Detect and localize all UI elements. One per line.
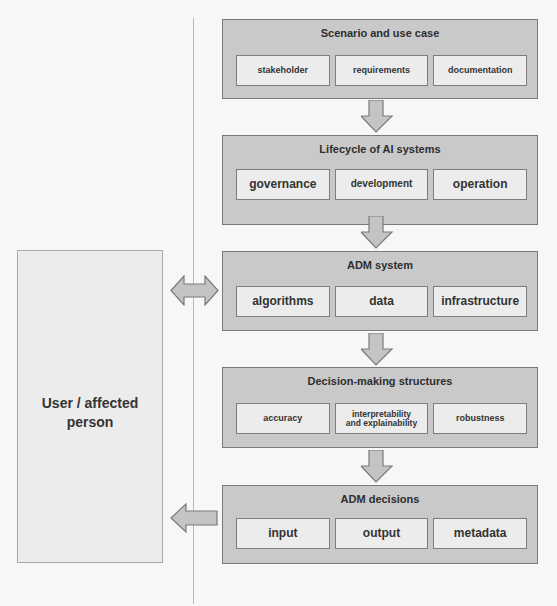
user-label-line2: person [18,413,162,432]
user-affected-person-box: User / affected person [17,250,163,563]
item-robustness: robustness [433,403,527,434]
item-metadata: metadata [433,518,527,549]
stage-items: algorithms data infrastructure [236,286,527,317]
stage-scenario-use-case: Scenario and use case stakeholder requir… [222,19,538,99]
arrow-down-icon [361,216,394,250]
stage-title: Scenario and use case [223,27,537,39]
item-accuracy: accuracy [236,403,330,434]
stage-decision-making-structures: Decision-making structures accuracy inte… [222,367,538,448]
stage-adm-system: ADM system algorithms data infrastructur… [222,251,538,331]
item-infrastructure: infrastructure [433,286,527,317]
item-data: data [335,286,429,317]
stage-lifecycle-ai-systems: Lifecycle of AI systems governance devel… [222,135,538,225]
arrow-down-icon [361,100,394,134]
stage-items: governance development operation [236,169,527,200]
user-label: User / affected person [18,394,162,432]
item-output: output [335,518,429,549]
stage-items: input output metadata [236,518,527,549]
item-input: input [236,518,330,549]
item-governance: governance [236,169,330,200]
stage-items: stakeholder requirements documentation [236,55,527,86]
user-label-line1: User / affected [18,394,162,413]
arrow-down-icon [361,450,394,484]
stage-title: ADM system [223,259,537,271]
item-stakeholder: stakeholder [236,55,330,86]
double-arrow-icon [170,275,219,306]
stage-adm-decisions: ADM decisions input output metadata [222,485,538,564]
item-documentation: documentation [433,55,527,86]
arrow-left-icon [170,503,218,533]
item-requirements: requirements [335,55,429,86]
stage-items: accuracy interpretability and explainabi… [236,403,527,434]
item-algorithms: algorithms [236,286,330,317]
stage-title: Lifecycle of AI systems [223,143,537,155]
arrow-down-icon [361,333,394,367]
item-operation: operation [433,169,527,200]
stage-title: Decision-making structures [223,375,537,387]
item-interpretability-explainability: interpretability and explainability [335,403,429,434]
item-line: and explainability [346,419,417,428]
item-development: development [335,169,429,200]
stage-title: ADM decisions [223,493,537,505]
